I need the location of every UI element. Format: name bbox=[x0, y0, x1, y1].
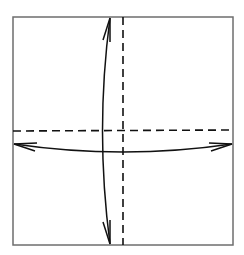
horizontal-valley-fold-line bbox=[13, 130, 233, 131]
origami-diagram bbox=[0, 0, 244, 255]
